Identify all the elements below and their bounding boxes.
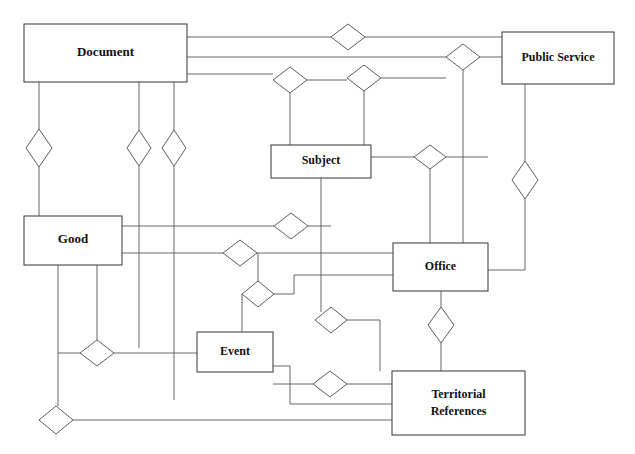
er-diagram-svg: DocumentPublic ServiceSubjectGoodOfficeE… [0, 0, 635, 454]
entity-subject[interactable]: Subject [271, 145, 371, 178]
relationship-diamond[interactable] [313, 371, 347, 397]
relationship-diamond[interactable] [428, 307, 454, 343]
relationship-diamond[interactable] [223, 240, 257, 266]
relationship-diamond[interactable] [414, 145, 446, 169]
relationship-diamond[interactable] [162, 130, 186, 166]
relationship-diamond[interactable] [39, 406, 73, 434]
relationship-diamond[interactable] [512, 161, 538, 199]
relationship-diamond[interactable] [273, 67, 307, 93]
entity-label: Public Service [522, 50, 596, 64]
entity-public_service[interactable]: Public Service [502, 32, 614, 84]
entity-good[interactable]: Good [24, 216, 122, 265]
entity-boxes-group: DocumentPublic ServiceSubjectGoodOfficeE… [24, 24, 614, 435]
entity-label: Good [58, 231, 89, 246]
entity-territorial_references[interactable]: TerritorialReferences [392, 371, 525, 435]
entity-label: Office [425, 259, 457, 273]
entity-label: Document [77, 44, 135, 59]
relationship-diamond[interactable] [315, 307, 347, 333]
er-diagram-canvas: DocumentPublic ServiceSubjectGoodOfficeE… [0, 0, 635, 454]
relationship-diamond[interactable] [347, 65, 381, 91]
entity-document[interactable]: Document [24, 24, 187, 82]
relationship-diamond[interactable] [274, 213, 308, 239]
entity-label-line-2: References [431, 404, 487, 418]
relationship-diamond[interactable] [80, 340, 114, 366]
relationship-diamond[interactable] [242, 281, 274, 307]
entity-office[interactable]: Office [393, 243, 488, 291]
entity-label: Subject [302, 153, 341, 167]
entity-event[interactable]: Event [197, 332, 273, 372]
relationship-diamond[interactable] [26, 129, 52, 167]
relationship-diamond[interactable] [446, 44, 480, 70]
relationship-diamond[interactable] [127, 130, 151, 166]
relationship-diamond[interactable] [331, 24, 365, 50]
entity-label-line-1: Territorial [431, 387, 486, 401]
entity-label: Event [220, 344, 250, 358]
